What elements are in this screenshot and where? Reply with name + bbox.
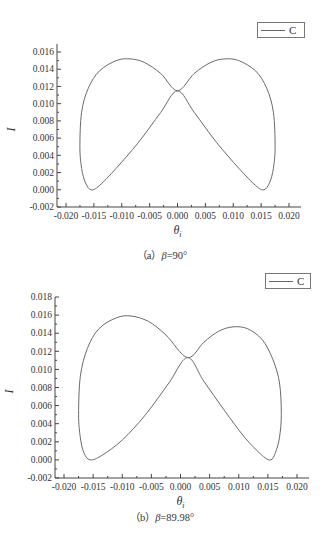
x-tick-label: -0.015 — [81, 482, 106, 492]
plot-b: -0.0020.0000.0020.0040.0060.0080.0100.01… — [0, 0, 324, 538]
y-tick-label: 0.008 — [31, 383, 53, 393]
y-axis-title: I — [2, 389, 16, 395]
y-tick-label: 0.010 — [31, 365, 53, 375]
x-axis-title: θi — [176, 494, 184, 510]
x-tick-label: -0.005 — [139, 482, 164, 492]
legend-label: C — [297, 275, 304, 287]
x-tick-label: 0.010 — [228, 482, 250, 492]
x-tick-label: -0.010 — [110, 482, 135, 492]
caption-b: （b）β=89.98° — [0, 509, 324, 524]
y-tick-label: 0.014 — [31, 328, 53, 338]
y-tick-label: -0.002 — [27, 473, 52, 483]
legend-b: C — [265, 273, 311, 289]
y-tick-label: 0.018 — [31, 292, 53, 302]
x-tick-label: 0.015 — [257, 482, 279, 492]
x-tick-label: -0.020 — [52, 482, 77, 492]
y-tick-label: 0.012 — [31, 347, 53, 357]
legend-line-icon — [269, 281, 293, 282]
y-tick-label: 0.000 — [31, 455, 53, 465]
y-tick-label: 0.006 — [31, 401, 53, 411]
series-line-C — [79, 316, 282, 460]
y-tick-label: 0.002 — [31, 437, 53, 447]
figure-b: -0.0020.0000.0020.0040.0060.0080.0100.01… — [0, 0, 324, 538]
y-tick-label: 0.016 — [31, 310, 53, 320]
y-tick-label: 0.004 — [31, 419, 53, 429]
x-tick-label: 0.020 — [286, 482, 308, 492]
x-tick-label: 0.000 — [170, 482, 192, 492]
x-tick-label: 0.005 — [199, 482, 221, 492]
